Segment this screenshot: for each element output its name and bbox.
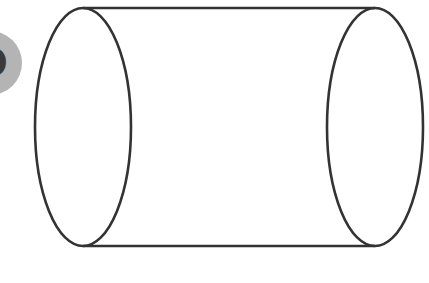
cylinder-right-end [327, 8, 423, 246]
cylinder-shape [0, 0, 429, 283]
diagram-canvas: D [0, 0, 429, 283]
cylinder-left-end [35, 8, 131, 246]
